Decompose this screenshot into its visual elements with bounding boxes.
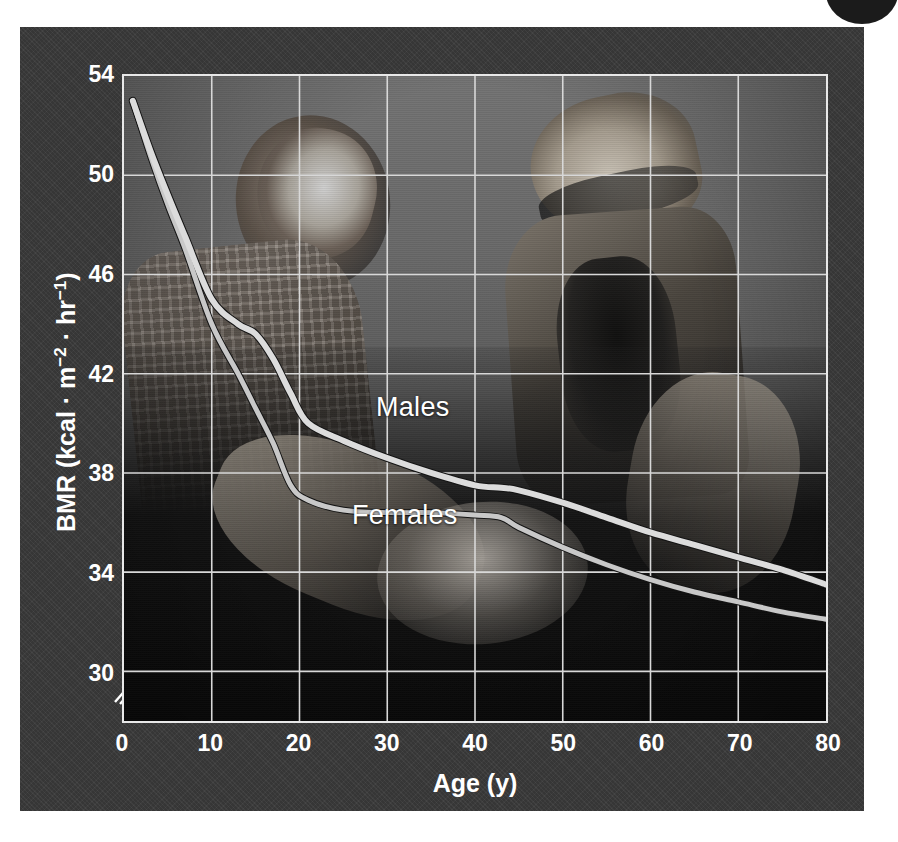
y-axis-title-exponent: −1 [51,281,70,300]
females-line [133,101,826,619]
x-axis-tick-labels: 01020304050607080 [122,730,828,764]
y-axis-title: BMR (kcal · m−2 · hr−1) [51,142,81,662]
y-axis-tick-label: 42 [88,360,114,387]
plot-area: Males Females [122,74,828,723]
x-axis-tick-label: 80 [815,730,841,757]
y-axis-title-text: BMR (kcal · m [52,367,80,532]
x-axis-title: Age (y) [122,769,828,798]
series-annotation-females: Females [352,500,458,531]
y-axis-tick-label: 38 [88,460,114,487]
x-axis-tick-label: 50 [550,730,576,757]
y-axis-title-text: · hr [52,300,80,347]
figure-panel: 30343842465054 BMR (kcal · m−2 · hr−1) [20,27,864,811]
x-axis-tick-label: 20 [286,730,312,757]
x-axis-tick-label: 10 [197,730,223,757]
x-axis-tick-label: 70 [727,730,753,757]
y-axis-title-text: ) [52,272,80,280]
y-axis-tick-label: 30 [88,660,114,687]
series-annotation-males: Males [376,392,450,423]
y-axis-tick-label: 54 [88,61,114,88]
y-axis-tick-label: 46 [88,260,114,287]
x-axis-tick-label: 0 [116,730,129,757]
females-line-shadow [133,101,826,619]
x-axis-tick-label: 30 [374,730,400,757]
y-axis-tick-label: 50 [88,160,114,187]
corner-decoration-circle [826,0,898,24]
x-axis-tick-label: 40 [462,730,488,757]
chart-canvas [124,76,826,721]
x-axis-tick-label: 60 [639,730,665,757]
y-axis-tick-label: 34 [88,560,114,587]
y-axis-title-exponent: −2 [51,347,70,366]
